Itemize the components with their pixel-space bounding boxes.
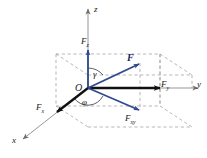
phi-arc xyxy=(74,96,103,105)
phi-angle-label: φ xyxy=(82,98,87,107)
fx-label-sub: x xyxy=(42,108,45,114)
fx-label: Fx xyxy=(36,103,44,115)
fxy-label-sub: xy xyxy=(131,119,136,125)
fz-label: Fz xyxy=(81,37,89,49)
fz-label-sub: z xyxy=(87,42,89,48)
vector-fxy xyxy=(88,88,139,110)
box-edge-receding-bottom-right xyxy=(160,106,192,127)
f-resultant-label: F xyxy=(127,53,134,63)
vector-diagram-figure: z y x O Fz Fy Fx Fxy F γ φ xyxy=(0,0,207,158)
box-edge-receding-top-right xyxy=(160,54,192,75)
origin-label: O xyxy=(75,83,82,93)
fy-label-sub: y xyxy=(167,85,170,91)
fy-label: Fy xyxy=(161,80,169,92)
vector-diagram-canvas xyxy=(0,0,207,158)
fxy-label: Fxy xyxy=(125,114,136,126)
x-axis-label: x xyxy=(12,136,16,145)
gamma-angle-label: γ xyxy=(93,70,97,79)
coordinate-axes xyxy=(23,9,198,139)
box-edge-receding-top-left xyxy=(56,54,88,75)
z-axis-label: z xyxy=(94,5,98,14)
y-axis-label: y xyxy=(197,80,201,89)
